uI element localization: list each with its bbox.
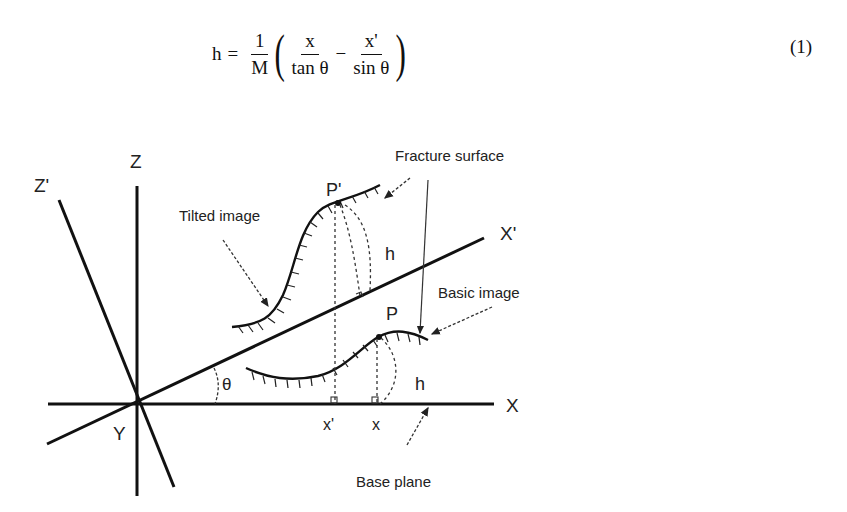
x-prime-tick-label: x'	[323, 416, 334, 433]
x-tick-label: x	[372, 416, 380, 433]
coefficient-denominator: M	[247, 55, 272, 79]
x-prime-label: X'	[500, 223, 516, 244]
theta-label: θ	[222, 375, 231, 394]
term2-fraction: x' sin θ	[349, 30, 393, 79]
x-label: X	[506, 395, 519, 416]
p-label: P	[386, 304, 398, 324]
tilt-geometry-figure: Z' Z X' X Y θ Fracture surface Tilted im…	[0, 110, 847, 512]
h-tilted-label: h	[385, 244, 395, 264]
basic-image-curve	[246, 332, 428, 388]
fracture-surface-arrow-vertical	[420, 180, 428, 333]
y-label: Y	[113, 423, 126, 444]
equals-sign: =	[228, 43, 239, 65]
x-prime-axis	[47, 238, 484, 444]
theta-arc	[214, 368, 218, 404]
base-plane-arrow	[407, 408, 428, 445]
term2-numerator: x'	[361, 30, 382, 55]
equation-lhs: h	[212, 43, 222, 65]
fracture-surface-label: Fracture surface	[395, 147, 504, 164]
coefficient-fraction: 1 M	[247, 30, 272, 79]
minus-sign: −	[336, 43, 347, 65]
h-basic-label: h	[415, 374, 425, 394]
term1-fraction: x tan θ	[287, 30, 332, 79]
basic-image-label: Basic image	[438, 284, 520, 301]
fracture-surface-arrow	[385, 178, 410, 198]
base-plane-label: Base plane	[356, 473, 431, 490]
equation-block: h = 1 M ( x tan θ − x' sin θ ) (1)	[0, 0, 847, 110]
right-angle-marks	[331, 292, 378, 403]
tilted-image-arrow	[223, 240, 268, 306]
axes	[47, 186, 494, 496]
tilted-image-label: Tilted image	[179, 207, 260, 224]
open-paren: (	[275, 28, 285, 80]
equation: h = 1 M ( x tan θ − x' sin θ )	[212, 14, 406, 94]
p-prime-label: P'	[326, 180, 341, 200]
term1-denominator: tan θ	[287, 55, 332, 79]
equation-number: (1)	[790, 36, 812, 58]
z-prime-label: Z'	[34, 175, 49, 196]
term1-numerator: x	[301, 30, 319, 55]
term2-denominator: sin θ	[349, 55, 393, 79]
coefficient-numerator: 1	[251, 30, 269, 55]
basic-image-arrow	[432, 307, 492, 334]
z-label: Z	[130, 151, 142, 172]
close-paren: )	[396, 28, 406, 80]
